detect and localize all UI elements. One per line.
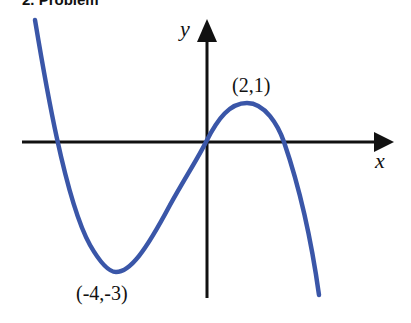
- cubic-curve: [35, 20, 319, 295]
- cubic-graph: [0, 0, 411, 323]
- min-point-label: (-4,-3): [76, 282, 128, 305]
- x-axis-label: x: [375, 148, 385, 174]
- y-axis-label: y: [180, 16, 190, 42]
- y-axis-arrow-icon: [197, 19, 217, 42]
- max-point-label: (2,1): [232, 74, 270, 97]
